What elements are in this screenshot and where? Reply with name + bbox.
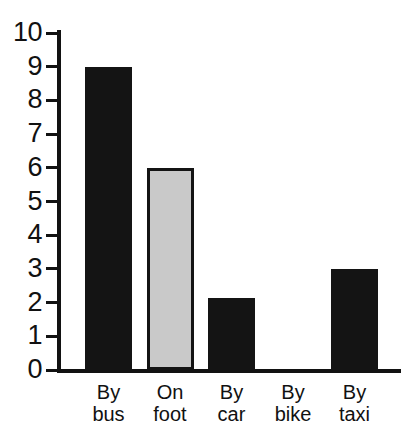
y-axis-tick-label: 10 [2, 19, 42, 46]
y-axis-tick-label: 8 [2, 86, 42, 113]
y-axis-tick [46, 267, 58, 270]
y-axis-tick [46, 133, 58, 136]
y-axis-tick-label: 7 [2, 120, 42, 147]
bar-by-car [208, 298, 255, 370]
y-axis-tick [46, 200, 58, 203]
x-axis-label-by-taxi: Bytaxi [310, 381, 400, 425]
y-axis-tick [46, 234, 58, 237]
y-axis-tick [46, 335, 58, 338]
bar-on-foot [147, 168, 194, 370]
y-axis-tick-label: 0 [2, 356, 42, 383]
y-axis-tick-label: 9 [2, 53, 42, 80]
y-axis-tick-label: 6 [2, 154, 42, 181]
bar-by-taxi [331, 269, 378, 370]
y-axis-tick [46, 301, 58, 304]
y-axis-tick-label: 1 [2, 322, 42, 349]
y-axis-tick-label: 5 [2, 188, 42, 215]
y-axis-tick [46, 32, 58, 35]
x-axis-label-line1: By [310, 381, 400, 403]
x-axis-label-line2: taxi [310, 403, 400, 425]
y-axis-tick-label: 2 [2, 289, 42, 316]
y-axis-tick-label: 3 [2, 255, 42, 282]
bar-by-bus [85, 67, 132, 370]
y-axis-tick-label: 4 [2, 221, 42, 248]
y-axis-tick [46, 99, 58, 102]
y-axis-tick [46, 166, 58, 169]
bar-chart: 012345678910 BybusOnfootBycarBybikeBytax… [0, 0, 414, 428]
y-axis-tick [46, 369, 58, 372]
y-axis-tick [46, 65, 58, 68]
